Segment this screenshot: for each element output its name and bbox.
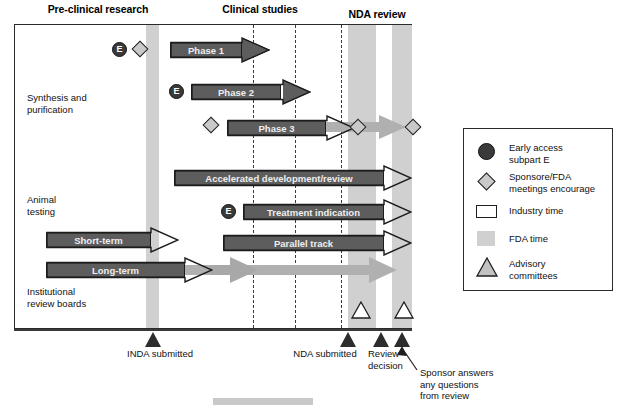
legend-label-sponsor-fda-meetings: Sponsore/FDA meetings encourage	[509, 171, 595, 194]
early-access-badge-phase1: E	[112, 42, 127, 57]
legend-icon-early-access-circle	[478, 143, 495, 160]
row-label-animal-testing: Animal testing	[27, 194, 56, 217]
axis-label-sponsor-answers: Sponsor answers any questions from revie…	[420, 367, 550, 402]
drug-development-timeline-diagram: Pre-clinical research Clinical studies N…	[0, 0, 621, 405]
arrow-phase-1-outline	[170, 37, 270, 63]
legend-label-advisory-committees: Advisory committees	[509, 258, 558, 281]
timeline-frame: Synthesis and purification Animal testin…	[14, 24, 412, 329]
bottom-decorative-band	[213, 398, 313, 405]
arrow-short-term: Short-term	[46, 227, 179, 253]
arrow-accelerated-outline	[174, 165, 412, 191]
early-access-badge-phase2: E	[169, 84, 184, 99]
timeline-axis	[14, 329, 412, 331]
arrow-long-term: Long-term	[46, 257, 213, 283]
legend-label-industry-time: Industry time	[509, 205, 563, 217]
column-header-nda-review: NDA review	[322, 9, 432, 21]
axis-marker-review-decision-icon	[372, 332, 390, 348]
row-label-synthesis: Synthesis and purification	[27, 92, 87, 115]
arrow-treatment-outline	[243, 199, 412, 225]
column-header-pre-clinical: Pre-clinical research	[38, 4, 158, 16]
arrow-phase-2-outline	[191, 79, 311, 105]
advisory-committee-triangle-1	[351, 301, 371, 319]
legend-icon-industry-time-rect	[476, 205, 497, 218]
axis-label-nda-submitted: NDA submitted	[265, 348, 385, 360]
sponsor-fda-meeting-diamond-phase3-start	[203, 117, 220, 134]
row-label-irb: Institutional review boards	[27, 286, 86, 309]
arrow-treatment-indication: Treatment indication	[243, 199, 412, 225]
arrow-phase-2: Phase 2	[191, 79, 311, 105]
legend-label-fda-time: FDA time	[509, 233, 548, 245]
arrow-phase-3-outline	[227, 115, 355, 141]
legend-icon-fda-time-band	[477, 231, 495, 246]
advisory-committee-triangle-2	[394, 301, 414, 319]
arrow-long-term-outline	[46, 257, 213, 283]
sponsor-answers-callout-arrow	[395, 344, 425, 374]
legend-icon-advisory-committee-triangle	[475, 257, 499, 278]
axis-marker-inda-submitted-icon	[144, 332, 162, 348]
column-header-clinical: Clinical studies	[200, 4, 320, 16]
legend-label-early-access: Early access subpart E	[509, 142, 563, 165]
arrow-phase-3: Phase 3	[227, 115, 355, 141]
arrow-phase-1: Phase 1	[170, 37, 270, 63]
early-access-badge-treatment: E	[221, 204, 236, 219]
arrow-parallel-track: Parallel track	[223, 230, 412, 256]
axis-marker-nda-submitted-icon	[339, 332, 357, 348]
axis-label-inda-submitted: INDA submitted	[100, 348, 220, 360]
arrow-parallel-outline	[223, 230, 412, 256]
legend-box: Early access subpart E Sponsore/FDA meet…	[463, 128, 613, 291]
arrow-accelerated-development: Accelerated development/review	[174, 165, 412, 191]
legend-icon-sponsor-fda-diamond	[477, 172, 495, 190]
arrow-short-term-outline	[46, 227, 179, 253]
